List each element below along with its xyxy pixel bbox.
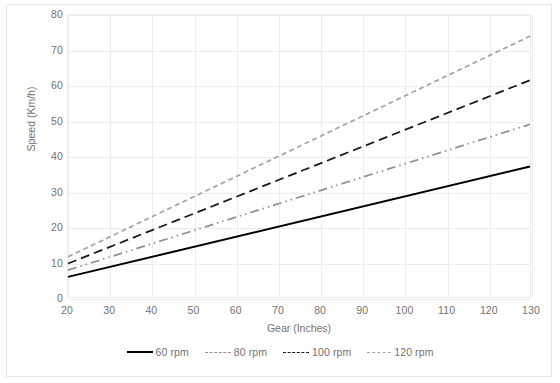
legend-swatch-icon	[127, 351, 153, 353]
x-axis-tick-label: 50	[174, 304, 214, 316]
y-axis-tick-label: 20	[11, 221, 63, 233]
x-axis-tick-label: 70	[258, 304, 298, 316]
legend-item-120-rpm[interactable]: 120 rpm	[367, 346, 433, 358]
legend-swatch-icon	[367, 352, 391, 353]
chart-container: 01020304050607080 2030405060708090100110…	[6, 4, 552, 377]
x-axis-tick-label: 90	[342, 304, 382, 316]
y-axis-tick-label: 80	[11, 8, 63, 20]
legend-item-60-rpm[interactable]: 60 rpm	[127, 346, 189, 358]
gridline-vertical	[532, 15, 533, 297]
legend-label: 100 rpm	[312, 346, 351, 358]
x-axis-tick-label: 60	[216, 304, 256, 316]
legend-label: 80 rpm	[234, 346, 267, 358]
chart-legend: 60 rpm80 rpm100 rpm120 rpm	[7, 346, 552, 358]
y-axis-tick-label: 70	[11, 44, 63, 56]
x-axis-tick-label: 30	[89, 304, 129, 316]
x-axis-tick-label: 20	[47, 304, 87, 316]
x-axis-tick-label: 100	[384, 304, 424, 316]
x-axis-tick-label: 110	[427, 304, 467, 316]
y-axis-title: Speed (Km/h)	[25, 49, 37, 189]
y-axis-tick-label: 60	[11, 79, 63, 91]
series-line-100-rpm	[68, 80, 530, 263]
x-axis-title: Gear (Inches)	[67, 322, 531, 334]
y-axis-tick-label: 40	[11, 150, 63, 162]
y-axis-tick-label: 0	[11, 292, 63, 304]
series-lines	[68, 15, 530, 297]
y-axis-tick-label: 30	[11, 186, 63, 198]
x-axis-tick-label: 40	[131, 304, 171, 316]
series-line-60-rpm	[68, 167, 530, 277]
x-axis-tick-labels: 2030405060708090100110120130	[67, 304, 531, 322]
legend-label: 120 rpm	[394, 346, 433, 358]
legend-item-100-rpm[interactable]: 100 rpm	[283, 346, 351, 358]
y-axis-tick-label: 50	[11, 115, 63, 127]
gridline-horizontal	[68, 299, 530, 300]
plot-area	[67, 14, 531, 298]
legend-swatch-icon	[205, 352, 231, 353]
legend-label: 60 rpm	[156, 346, 189, 358]
legend-item-80-rpm[interactable]: 80 rpm	[205, 346, 267, 358]
x-axis-tick-label: 130	[511, 304, 551, 316]
x-axis-tick-label: 80	[300, 304, 340, 316]
legend-swatch-icon	[283, 352, 309, 353]
y-axis-tick-label: 10	[11, 257, 63, 269]
x-axis-tick-label: 120	[469, 304, 509, 316]
